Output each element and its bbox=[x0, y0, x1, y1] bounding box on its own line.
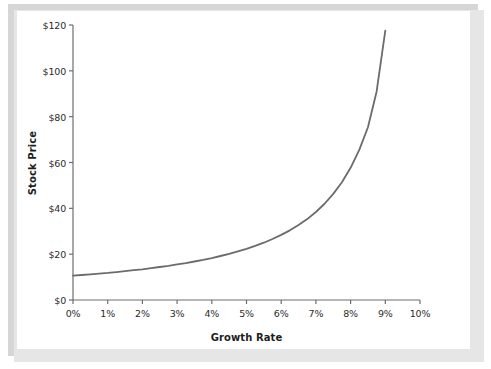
x-tick-label: 8% bbox=[343, 308, 358, 319]
data-series-lines bbox=[73, 31, 385, 276]
y-tick-label: $40 bbox=[48, 203, 66, 214]
x-tick-label: 7% bbox=[309, 308, 324, 319]
x-tick-label: 2% bbox=[135, 308, 150, 319]
axes-lines bbox=[73, 25, 420, 300]
x-axis-title: Growth Rate bbox=[211, 332, 283, 343]
x-tick-label: 3% bbox=[170, 308, 185, 319]
y-tick-label: $20 bbox=[48, 249, 66, 260]
y-tick-label: $60 bbox=[48, 157, 66, 168]
y-tick-label: $120 bbox=[43, 20, 66, 31]
y-tick-label: $100 bbox=[43, 65, 66, 76]
axis-ticks bbox=[69, 25, 420, 304]
chart-figure: $0$20$40$60$80$100$120 0%1%2%3%4%5%6%7%8… bbox=[0, 0, 491, 369]
x-tick-label: 4% bbox=[204, 308, 219, 319]
x-tick-label: 5% bbox=[239, 308, 254, 319]
x-tick-label: 0% bbox=[66, 308, 81, 319]
x-tick-label: 1% bbox=[100, 308, 115, 319]
y-tick-label: $80 bbox=[48, 111, 66, 122]
x-tick-label: 10% bbox=[410, 308, 431, 319]
x-tick-label: 6% bbox=[274, 308, 289, 319]
x-tick-label: 9% bbox=[378, 308, 393, 319]
y-tick-label: $0 bbox=[54, 295, 66, 306]
y-axis-title: Stock Price bbox=[27, 130, 38, 194]
